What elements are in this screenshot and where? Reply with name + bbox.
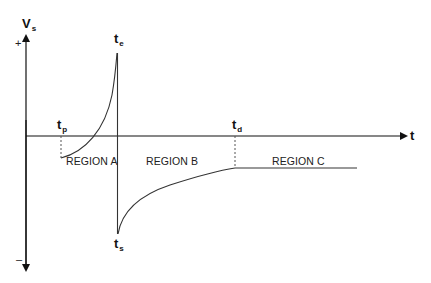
region-a-curve	[61, 53, 117, 158]
tp-label-main: t	[57, 117, 61, 132]
voltage-axis-label-sub: s	[32, 24, 36, 33]
time-axis-label: t	[410, 128, 414, 143]
te-label-sub: e	[119, 39, 123, 48]
voltage-axis-label: Vs	[22, 16, 36, 33]
region-b-label: REGION B	[146, 155, 198, 167]
tp-label-sub: p	[62, 125, 67, 134]
region-b-curve	[118, 168, 235, 234]
region-c-label: REGION C	[272, 155, 325, 167]
tp-label: tp	[57, 117, 67, 134]
positive-sign: +	[15, 37, 21, 49]
td-label: td	[232, 117, 242, 134]
te-label-main: t	[114, 31, 118, 46]
ts-label-main: t	[114, 236, 118, 251]
waveform-diagram	[0, 0, 431, 283]
negative-sign: –	[16, 253, 22, 265]
td-label-sub: d	[237, 125, 242, 134]
voltage-axis-label-main: V	[22, 16, 31, 31]
ts-label: ts	[114, 236, 124, 253]
td-label-main: t	[232, 117, 236, 132]
te-label: te	[114, 31, 124, 48]
ts-label-sub: s	[119, 244, 123, 253]
region-a-label: REGION A	[66, 155, 118, 167]
